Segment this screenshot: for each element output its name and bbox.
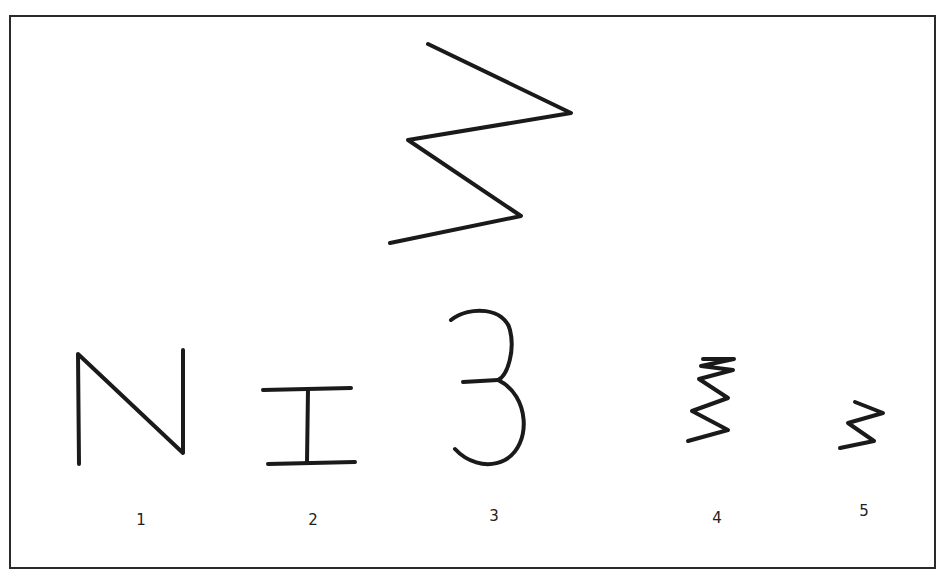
option-1-label: 1 <box>136 511 146 529</box>
option-3-label: 3 <box>489 507 499 525</box>
option-1-shape <box>78 350 183 464</box>
option-4-shape <box>688 359 734 441</box>
target-zigzag-shape <box>390 44 571 243</box>
option-5-shape <box>840 402 883 448</box>
option-2-shape <box>263 388 355 464</box>
option-3-shape <box>451 311 524 464</box>
option-2-label: 2 <box>308 511 318 529</box>
figure-drawing <box>0 0 944 579</box>
option-4-label: 4 <box>712 509 722 527</box>
option-5-label: 5 <box>859 502 869 520</box>
